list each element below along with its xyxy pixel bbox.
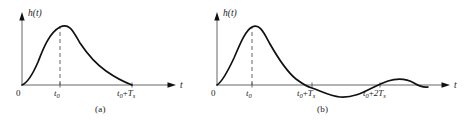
panel-b-y-axis-label: h(t) — [223, 8, 237, 18]
panel-a-x-axis-label: t — [180, 80, 183, 90]
panel-b: h(t) t 0 t0 t0+Ts t0+2Ts (b) — [204, 0, 468, 122]
panel-b-x-axis-label: t — [454, 80, 457, 90]
panel-a-tick-label-t0-plus-ts: t0+Ts — [117, 89, 135, 98]
panel-a-y-axis — [19, 12, 24, 85]
panel-b-plot — [204, 0, 468, 122]
panel-a-caption: (a) — [95, 104, 106, 114]
panel-a: h(t) t 0 t0 t0+Ts (a) — [0, 0, 220, 122]
panel-b-y-axis — [214, 12, 219, 85]
panel-b-tick-label-t0-plus-ts: t0+Ts — [297, 89, 315, 98]
panel-b-tick-label-t0-plus-2ts: t0+2Ts — [363, 89, 386, 98]
panel-a-x-axis — [22, 82, 176, 87]
panel-a-y-axis-label: h(t) — [28, 8, 42, 18]
panel-a-tick-label-t0: t0 — [54, 89, 60, 98]
panel-b-caption: (b) — [317, 104, 328, 114]
figure-container: h(t) t 0 t0 t0+Ts (a) — [0, 0, 468, 122]
panel-a-origin-label: 0 — [16, 88, 21, 98]
panel-a-curve — [22, 26, 132, 85]
panel-b-origin-label: 0 — [211, 88, 216, 98]
panel-b-curve — [217, 26, 428, 97]
panel-b-tick-label-t0: t0 — [246, 89, 252, 98]
panel-a-plot — [0, 0, 220, 122]
